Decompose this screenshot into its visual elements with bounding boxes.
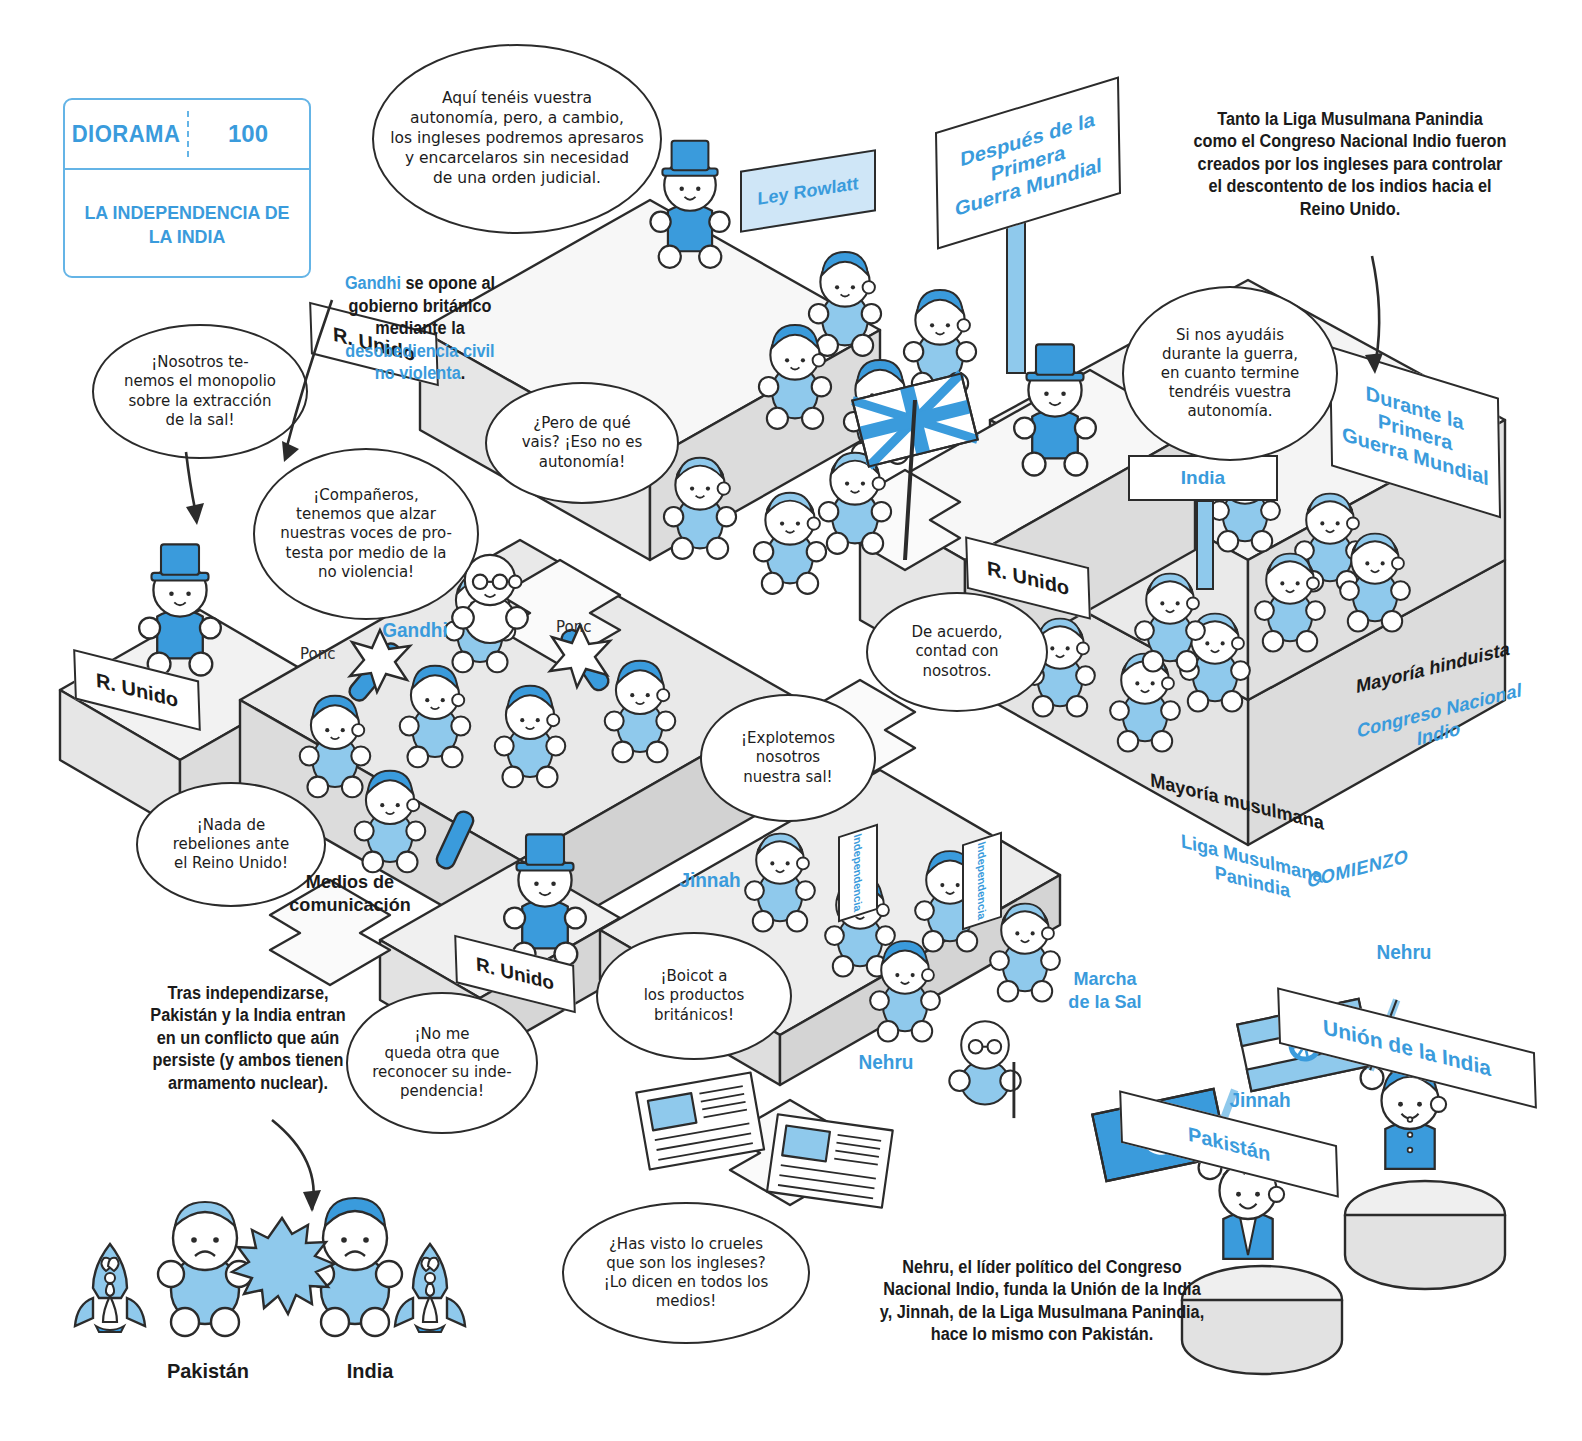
- caption-gandhi-seg-2: desobediencia civil no violenta: [345, 341, 494, 383]
- label-ponc-2: Ponc: [556, 618, 591, 636]
- caption-gandhi-note: Gandhi se opone al gobierno británico me…: [325, 250, 515, 384]
- speech-bubble-war-promise: Si nos ayudáis durante la guerra, en cua…: [1122, 286, 1338, 461]
- caption-league-note: Tanto la Liga Musulmana Panindia como el…: [1162, 108, 1538, 220]
- label-jinnah-crowd: Jinnah: [664, 868, 755, 892]
- speech-bubble-recognize: ¡No me queda otra que reconocer su inde-…: [346, 992, 538, 1134]
- label-nehru-flag: Nehru: [1358, 940, 1449, 964]
- sign-india: India: [1128, 455, 1278, 501]
- caption-gandhi-seg-3: .: [461, 363, 466, 383]
- label-ponc-1: Ponc: [300, 645, 335, 663]
- label-nehru-crowd: Nehru: [840, 1050, 931, 1074]
- diorama-page: DIORAMA 100 LA INDEPENDENCIA DE LA INDIA…: [0, 0, 1582, 1441]
- label-gandhi: Gandhi: [363, 618, 468, 642]
- speech-bubble-rowlatt: Aquí tenéis vuestra autonomía, pero, a c…: [372, 44, 662, 234]
- speech-bubble-but-what: ¿Pero de qué vais? ¡Eso no es autonomía!: [485, 382, 679, 504]
- label-pakistan-country: Pakistán: [142, 1358, 275, 1384]
- speech-bubble-salt-monopoly: ¡Nosotros te- nemos el monopolio sobre l…: [92, 324, 308, 459]
- sign-independencia-2: Independencia: [962, 832, 1002, 931]
- caption-conflict-note: Tras independizarse, Pakistán y la India…: [127, 982, 369, 1094]
- caption-gandhi-seg-0: Gandhi: [345, 273, 401, 293]
- sign-independencia-1: Independencia: [838, 824, 878, 923]
- caption-founders-note: Nehru, el líder político del Congreso Na…: [856, 1256, 1228, 1346]
- speech-bubble-gandhi-protest: ¡Compañeros, tenemos que alzar nuestras …: [253, 448, 479, 620]
- signpost-despues-guerra: [1006, 220, 1026, 374]
- speech-bubble-agreed: De acuerdo, contad con nosotros.: [866, 592, 1048, 712]
- label-medios-comunicacion: Medios de comunicación: [274, 870, 426, 916]
- speech-bubble-cruel-media: ¿Has visto lo crueles que son los ingles…: [562, 1202, 810, 1344]
- speech-bubble-boycott: ¡Boicot a los productos británicos!: [596, 932, 792, 1060]
- signpost-india: [1196, 500, 1214, 590]
- label-india-country: India: [304, 1358, 437, 1384]
- label-marcha-de-la-sal: Marcha de la Sal: [1045, 968, 1165, 1014]
- speech-bubble-exploit-salt: ¡Explotemos nosotros nuestra sal!: [700, 694, 876, 822]
- label-jinnah-flag: Jinnah: [1214, 1088, 1305, 1112]
